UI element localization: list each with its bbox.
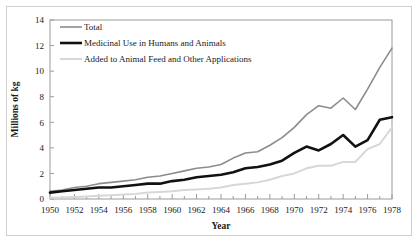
legend-label-1: Medicinal Use in Humans and Animals — [84, 38, 226, 48]
x-axis-title: Year — [212, 221, 232, 231]
x-tick-label-1962: 1962 — [188, 205, 206, 215]
x-tick-label-1970: 1970 — [285, 205, 304, 215]
y-tick-label-2: 2 — [40, 169, 45, 179]
x-tick-label-1976: 1976 — [359, 205, 378, 215]
x-tick-label-1952: 1952 — [65, 205, 83, 215]
y-tick-label-6: 6 — [40, 118, 45, 128]
y-tick-label-4: 4 — [40, 143, 45, 153]
x-tick-label-1958: 1958 — [139, 205, 158, 215]
x-tick-label-1972: 1972 — [310, 205, 328, 215]
y-axis-title: Millions of kg — [10, 81, 20, 137]
legend-label-0: Total — [84, 22, 103, 32]
legend-label-2: Added to Animal Feed and Other Applicati… — [84, 54, 252, 64]
x-tick-label-1968: 1968 — [261, 205, 280, 215]
chart-figure: 0246810121419501952195419561958196019621… — [0, 0, 420, 244]
y-tick-label-12: 12 — [35, 41, 44, 51]
x-tick-label-1954: 1954 — [90, 205, 109, 215]
plot-area: 0246810121419501952195419561958196019621… — [0, 0, 420, 244]
line-chart: 0246810121419501952195419561958196019621… — [0, 0, 420, 244]
y-tick-label-8: 8 — [40, 92, 45, 102]
x-tick-label-1974: 1974 — [334, 205, 353, 215]
x-tick-label-1956: 1956 — [114, 205, 133, 215]
x-tick-label-1966: 1966 — [236, 205, 255, 215]
y-tick-label-10: 10 — [35, 66, 45, 76]
x-tick-label-1950: 1950 — [41, 205, 60, 215]
x-tick-label-1964: 1964 — [212, 205, 231, 215]
x-tick-label-1960: 1960 — [163, 205, 182, 215]
y-tick-label-14: 14 — [35, 15, 45, 25]
y-tick-label-0: 0 — [40, 194, 45, 204]
x-tick-label-1978: 1978 — [383, 205, 402, 215]
